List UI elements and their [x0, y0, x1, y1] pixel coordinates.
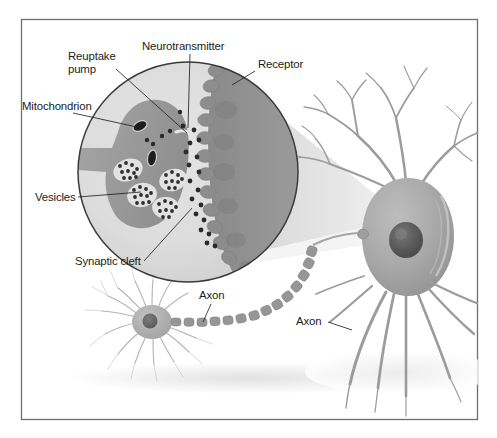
label-mitochondrion: Mitochondrion — [22, 100, 92, 112]
label-neurotransmitter: Neurotransmitter — [142, 40, 225, 52]
nucleus-small — [143, 314, 158, 329]
ground-haze — [305, 350, 495, 394]
label-synaptic-cleft: Synaptic cleft — [75, 255, 142, 267]
label-reuptake-pump-line2: pump — [68, 63, 96, 75]
label-receptor: Receptor — [258, 58, 303, 70]
label-axon-left: Axon — [199, 289, 224, 301]
synapse-diagram-figure: Mitochondrion Reuptake pump Neurotransmi… — [0, 0, 497, 438]
label-reuptake-pump-line1: Reuptake — [68, 50, 116, 62]
nucleolus-highlight — [395, 228, 407, 240]
synaptic-bouton-knob — [358, 229, 369, 239]
label-axon-right: Axon — [296, 315, 321, 327]
nucleus — [389, 222, 423, 258]
label-vesicles: Vesicles — [35, 191, 76, 203]
